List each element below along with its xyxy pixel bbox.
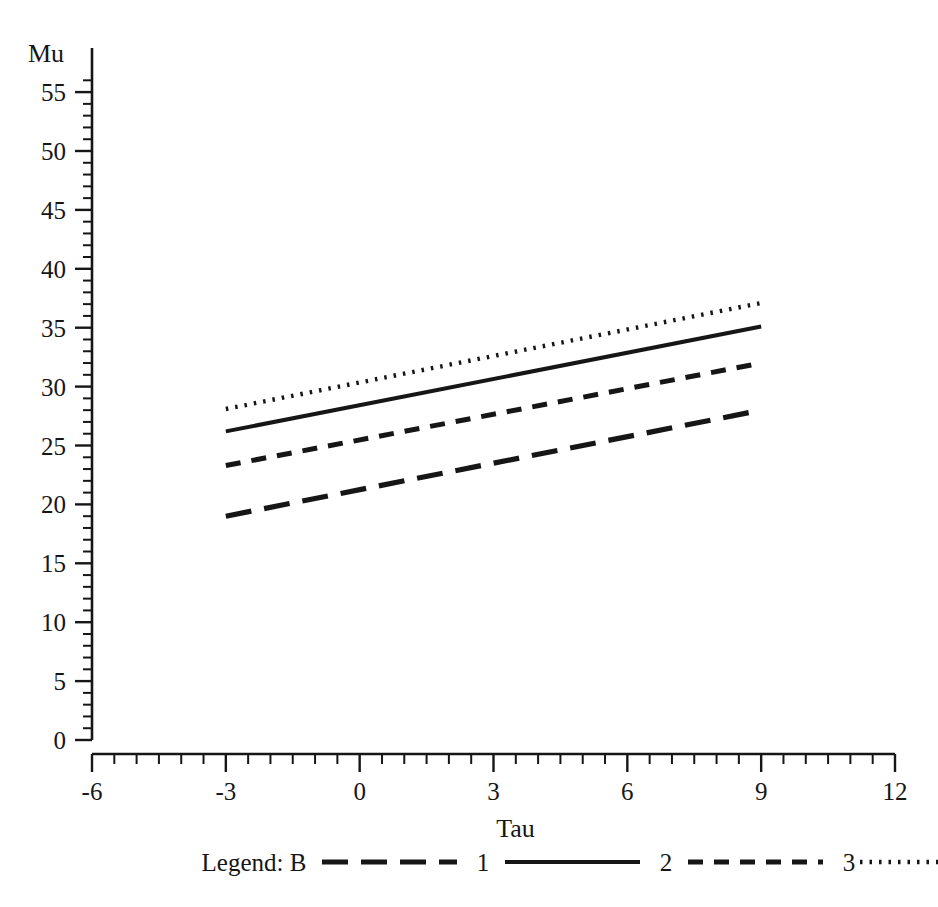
- series-line-1: [226, 410, 761, 516]
- x-tick-label: 6: [621, 778, 634, 805]
- y-tick-label: 15: [41, 550, 66, 577]
- y-tick-label: 25: [41, 433, 66, 460]
- x-tick-label: 12: [883, 778, 908, 805]
- y-tick-label: 10: [41, 609, 66, 636]
- y-tick-label: 50: [41, 138, 66, 165]
- legend-label-1: 1: [477, 849, 490, 876]
- x-tick-label: 9: [755, 778, 768, 805]
- line-chart-svg: 0510152025303540455055Mu-6-3036912TauLeg…: [0, 0, 938, 907]
- y-tick-label: 5: [54, 668, 67, 695]
- series-line-4: [226, 303, 761, 409]
- y-tick-label: 20: [41, 491, 66, 518]
- y-tick-label: 40: [41, 256, 66, 283]
- x-tick-label: -3: [215, 778, 236, 805]
- legend-label-3: 3: [843, 849, 856, 876]
- y-tick-label: 45: [41, 197, 66, 224]
- chart-canvas: 0510152025303540455055Mu-6-3036912TauLeg…: [0, 0, 938, 907]
- y-tick-label: 30: [41, 374, 66, 401]
- x-tick-label: 3: [487, 778, 500, 805]
- legend-label-2: 2: [660, 849, 673, 876]
- x-tick-label: 0: [353, 778, 366, 805]
- y-tick-label: 35: [41, 315, 66, 342]
- y-tick-label: 55: [41, 79, 66, 106]
- legend-title: Legend: B: [202, 849, 307, 876]
- x-tick-label: -6: [82, 778, 103, 805]
- x-axis-title: Tau: [496, 814, 535, 843]
- y-tick-label: 0: [54, 727, 67, 754]
- y-axis-title: Mu: [28, 39, 64, 68]
